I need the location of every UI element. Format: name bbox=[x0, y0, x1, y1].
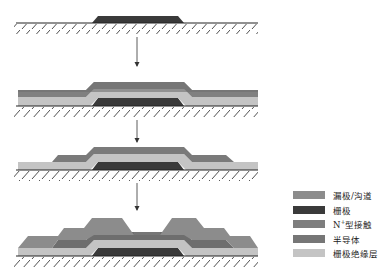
legend-item-n-plus-contact: N+型接触 bbox=[293, 217, 390, 232]
arrow-2-head bbox=[135, 138, 140, 143]
step-3 bbox=[14, 147, 258, 181]
arrow-1-head bbox=[135, 62, 140, 67]
legend-label: 漏极/沟道 bbox=[333, 189, 372, 201]
gate-layer bbox=[92, 16, 184, 23]
swatch-source-drain bbox=[293, 191, 325, 199]
swatch-gate bbox=[293, 206, 325, 214]
arrow-3-head bbox=[135, 206, 140, 211]
step-1 bbox=[14, 16, 258, 34]
legend-item-gate-insulator: 栅极绝缘层 bbox=[293, 246, 390, 261]
substrate-hatch bbox=[14, 24, 258, 34]
legend-label: 栅极 bbox=[333, 204, 351, 216]
legend-item-source-drain: 漏极/沟道 bbox=[293, 188, 390, 203]
legend-label: N+型接触 bbox=[333, 218, 372, 230]
step-4 bbox=[14, 218, 258, 267]
swatch-gate-insulator bbox=[293, 249, 325, 257]
legend-label: 栅极绝缘层 bbox=[333, 247, 378, 259]
swatch-n-plus bbox=[293, 220, 325, 228]
legend-item-semiconductor: 半导体 bbox=[293, 232, 390, 247]
legend: 漏极/沟道 栅极 N+型接触 半导体 栅极绝缘层 bbox=[293, 188, 390, 261]
swatch-semiconductor bbox=[293, 235, 325, 243]
legend-item-gate: 栅极 bbox=[293, 203, 390, 218]
step-2 bbox=[14, 82, 258, 117]
legend-label: 半导体 bbox=[333, 233, 360, 245]
